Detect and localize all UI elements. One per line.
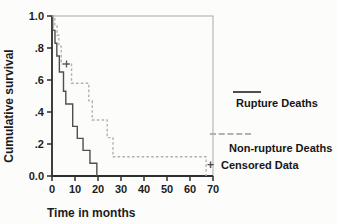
y-tick-label: .2 (35, 138, 44, 150)
x-tick-label: 40 (138, 183, 150, 195)
x-tick-label: 10 (69, 183, 81, 195)
x-tick-label: 60 (184, 183, 196, 195)
y-tick-label: 1.0 (29, 10, 44, 22)
legend-dashed-line-sample (210, 133, 251, 135)
y-tick-label: .8 (35, 42, 44, 54)
y-tick-label: 0.0 (29, 170, 44, 182)
legend-solid-line-sample (233, 91, 261, 93)
survival-chart-figure: 1.0.8.6.4.20.0010203040506070 Cumulative… (0, 0, 337, 224)
series-non-rupture-deaths (52, 16, 206, 176)
y-axis-title: Cumulative survival (2, 49, 16, 162)
y-tick-label: .6 (35, 74, 44, 86)
legend-label-censored-data: Censored Data (221, 159, 299, 171)
legend-label-non-rupture-deaths: Non-rupture Deaths (229, 142, 332, 154)
x-tick-label: 50 (161, 183, 173, 195)
x-axis-title: Time in months (47, 206, 135, 220)
legend-plus-marker-icon: + (207, 158, 214, 172)
x-tick-label: 20 (92, 183, 104, 195)
x-tick-label: 0 (49, 183, 55, 195)
y-tick-label: .4 (35, 106, 45, 118)
x-tick-label: 70 (207, 183, 219, 195)
plot-area: 1.0.8.6.4.20.0010203040506070 (0, 0, 337, 224)
legend-label-rupture-deaths: Rupture Deaths (236, 97, 318, 109)
plot-frame (52, 16, 213, 176)
x-tick-label: 30 (115, 183, 127, 195)
